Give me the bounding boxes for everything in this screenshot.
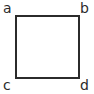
vertex-label-a: a [3, 1, 12, 15]
square-outline [16, 16, 79, 78]
vertex-label-c: c [3, 78, 11, 92]
geometry-figure: a b c d [0, 0, 94, 94]
vertex-label-b: b [80, 1, 89, 15]
vertex-label-d: d [80, 78, 89, 92]
